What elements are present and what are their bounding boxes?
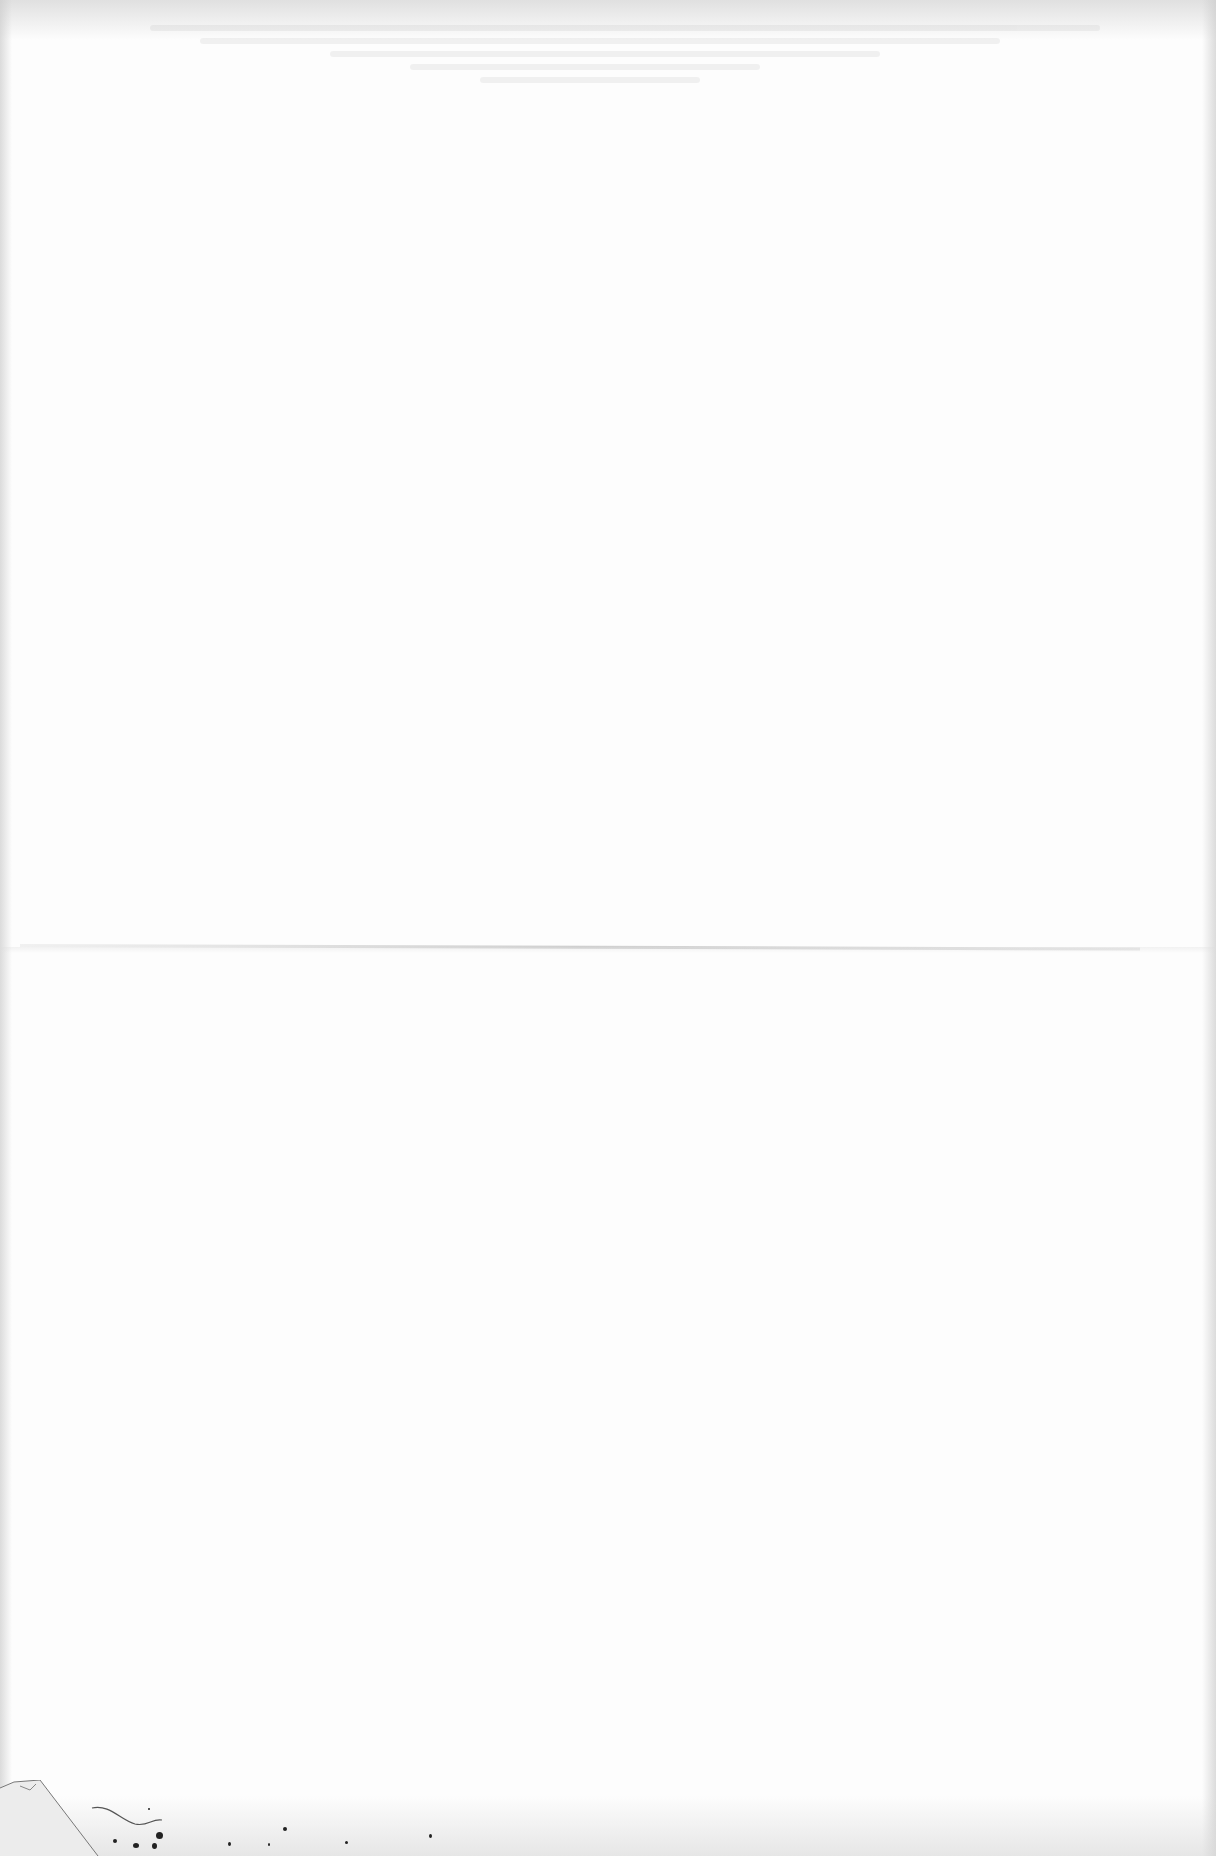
ink-speck — [113, 1839, 117, 1843]
scanned-page — [0, 0, 1216, 1856]
scan-edge-right — [1202, 0, 1216, 1856]
ink-speck — [429, 1834, 432, 1838]
ink-speck — [152, 1843, 157, 1849]
ink-speck — [148, 1808, 150, 1810]
hair-strand — [92, 1807, 162, 1824]
ink-speck — [345, 1841, 348, 1844]
torn-corner-debris — [0, 1780, 260, 1856]
ink-speck — [156, 1832, 163, 1839]
bleed-through-text — [150, 18, 1150, 138]
fold-shadow — [0, 947, 1216, 953]
scan-edge-left — [0, 0, 12, 1856]
ink-speck — [228, 1842, 231, 1846]
ink-speck — [283, 1827, 287, 1831]
ink-speck — [268, 1843, 270, 1846]
ink-speck — [133, 1843, 139, 1848]
